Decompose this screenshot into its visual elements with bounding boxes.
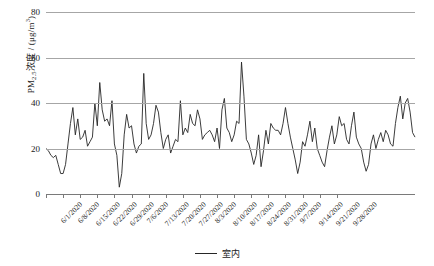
- x-axis-tick-labels: 6/1/20206/8/20206/15/20206/22/20206/29/2…: [0, 199, 434, 245]
- y-tick-label-80: 80: [14, 8, 40, 17]
- x-tick-13: [268, 194, 269, 198]
- x-tick-17: [337, 194, 338, 198]
- x-tick-16: [320, 194, 321, 198]
- gridline-40: [46, 103, 415, 104]
- y-tick-label-0: 0: [14, 190, 40, 199]
- x-tick-9: [200, 194, 201, 198]
- gridline-80: [46, 12, 415, 13]
- pm25-line-chart: PM2.5浓度 / (μg/m3) 020406080 6/1/20206/8/…: [0, 0, 434, 266]
- chart-legend: 室内: [0, 244, 434, 262]
- plot-area: [46, 12, 415, 194]
- gridline-60: [46, 58, 415, 59]
- x-tick-1: [63, 194, 64, 198]
- x-tick-2: [80, 194, 81, 198]
- y-tick-label-20: 20: [14, 144, 40, 153]
- legend-line-swatch: [195, 253, 217, 254]
- gridline-20: [46, 149, 415, 150]
- x-tick-15: [303, 194, 304, 198]
- x-tick-10: [217, 194, 218, 198]
- x-tick-14: [285, 194, 286, 198]
- x-tick-4: [114, 194, 115, 198]
- x-tick-8: [183, 194, 184, 198]
- x-tick-7: [166, 194, 167, 198]
- x-tick-6: [149, 194, 150, 198]
- x-tick-5: [132, 194, 133, 198]
- series-indoor-polyline: [46, 62, 415, 187]
- x-tick-0: [46, 194, 47, 198]
- y-tick-label-40: 40: [14, 99, 40, 108]
- x-tick-11: [234, 194, 235, 198]
- x-tick-12: [251, 194, 252, 198]
- y-tick-label-60: 60: [14, 53, 40, 62]
- legend-label-indoor: 室内: [222, 247, 240, 260]
- x-tick-3: [97, 194, 98, 198]
